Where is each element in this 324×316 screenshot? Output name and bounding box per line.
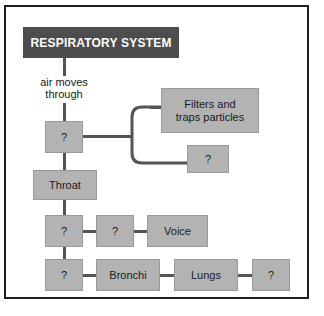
node-voicebox[interactable]: ? <box>96 215 134 247</box>
edge-nose-to-fork <box>83 135 132 138</box>
node-windpipe[interactable]: ? <box>45 215 83 247</box>
node-nose[interactable]: ? <box>45 121 83 153</box>
edge-bottom-first-to-bronchi <box>83 274 97 277</box>
edge-windpipe-to-voicebox <box>83 230 97 233</box>
node-nose-branch-2[interactable]: ? <box>187 145 229 173</box>
node-bottom-first[interactable]: ? <box>45 259 83 291</box>
edge-title-to-label <box>63 58 66 76</box>
node-filters-traps-particles[interactable]: Filters and traps particles <box>161 88 259 133</box>
edge-throat-to-windpipe <box>63 200 66 216</box>
edge-label-to-nose <box>63 103 66 122</box>
edge-lungs-to-bottom-last <box>238 274 253 277</box>
edge-bronchi-to-lungs <box>160 274 175 277</box>
node-bronchi[interactable]: Bronchi <box>96 259 160 291</box>
node-bottom-last[interactable]: ? <box>252 259 290 291</box>
respiratory-system-diagram: RESPIRATORY SYSTEM air moves through ? F… <box>0 0 324 316</box>
edge-voicebox-to-voice <box>134 230 148 233</box>
diagram-title-bar: RESPIRATORY SYSTEM <box>23 27 179 58</box>
node-throat[interactable]: Throat <box>33 170 97 200</box>
node-voice[interactable]: Voice <box>147 215 208 247</box>
edge-nose-to-throat <box>63 153 66 171</box>
flow-label-air-moves-through: air moves through <box>31 76 97 100</box>
node-lungs[interactable]: Lungs <box>174 259 238 291</box>
